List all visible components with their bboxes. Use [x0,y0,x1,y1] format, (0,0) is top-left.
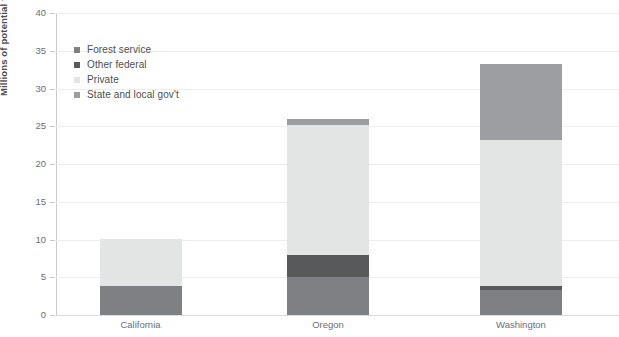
y-tick-label: 40 [0,7,46,18]
stacked-bar-chart: Millions of potential taps 0510152025303… [0,0,619,337]
x-axis-label-washington: Washington [461,319,581,330]
y-tick-mark [50,277,55,278]
y-tick-label: 15 [0,196,46,207]
gridline [56,315,619,316]
y-tick-label: 30 [0,83,46,94]
legend-label-forest-service: Forest service [87,44,151,55]
y-tick-mark [50,89,55,90]
bar-segment-private[interactable] [480,140,562,286]
y-tick-mark [50,202,55,203]
x-axis-label-california: California [81,319,201,330]
bar-segment-forest-service[interactable] [480,290,562,315]
bar-segment-forest-service[interactable] [287,277,369,315]
y-tick-label: 10 [0,234,46,245]
cropped-title-strip [0,0,619,7]
legend-item[interactable]: Forest service [74,43,179,57]
bar-segment-private[interactable] [100,239,182,286]
bar-segment-private[interactable] [287,125,369,256]
bar-washington[interactable] [480,13,562,315]
legend-swatch-state-and-local-govt [74,92,80,98]
bar-segment-forest-service[interactable] [100,286,182,315]
legend-item[interactable]: Other federal [74,58,179,72]
bar-segment-state-and-local-gov-t[interactable] [480,64,562,140]
bar-segment-other-federal[interactable] [480,286,562,291]
y-tick-mark [50,164,55,165]
y-tick-mark [50,315,55,316]
legend-item[interactable]: State and local gov't [74,88,179,102]
y-tick-mark [50,13,55,14]
legend-label-other-federal: Other federal [87,59,147,70]
y-tick-label: 20 [0,158,46,169]
legend-swatch-other-federal [74,62,80,68]
legend-label-private: Private [87,74,119,85]
bar-segment-state-and-local-gov-t[interactable] [287,119,369,125]
y-tick-label: 25 [0,120,46,131]
y-tick-label: 5 [0,271,46,282]
legend-item[interactable]: Private [74,73,179,87]
x-axis-label-oregon: Oregon [268,319,388,330]
legend-swatch-forest-service [74,47,80,53]
legend-swatch-private [74,77,80,83]
y-tick-label: 0 [0,309,46,320]
legend: Forest service Other federal Private Sta… [74,43,179,103]
y-tick-mark [50,51,55,52]
y-tick-mark [50,240,55,241]
legend-label-state-and-local-govt: State and local gov't [87,89,179,100]
y-tick-mark [50,126,55,127]
bar-segment-other-federal[interactable] [287,255,369,277]
bar-oregon[interactable] [287,13,369,315]
y-tick-label: 35 [0,45,46,56]
